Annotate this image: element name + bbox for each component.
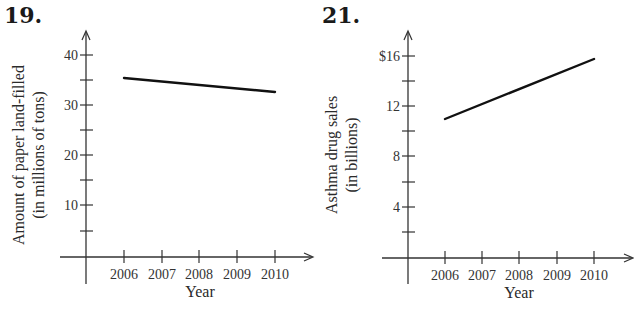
x-tick-label: 2010 [580, 268, 608, 283]
x-tick-label: 2006 [110, 267, 138, 282]
y-axis-title-line2: (in billions) [343, 117, 361, 192]
y-tick-label: $16 [379, 49, 400, 64]
x-tick-label: 2008 [505, 268, 533, 283]
x-tick-label: 2006 [431, 268, 459, 283]
x-axis-title: Year [185, 283, 215, 300]
data-line [124, 78, 275, 92]
y-tick-label: 12 [386, 99, 400, 114]
y-tick-label: 4 [393, 200, 400, 215]
y-axis-title-line2: (in millions of tons) [30, 91, 48, 219]
chart-19: 40 30 20 10 2006 2007 2008 2009 2010 Yea… [10, 31, 313, 300]
y-tick-label: 40 [64, 48, 78, 63]
y-tick-label: 8 [393, 149, 400, 164]
x-tick-label: 2008 [185, 267, 213, 282]
y-tick-label: 30 [64, 98, 78, 113]
y-tick-label: 10 [64, 198, 78, 213]
x-tick-label: 2010 [261, 267, 289, 282]
chart-21: $16 12 8 4 2006 2007 2008 2009 2010 Year… [323, 31, 633, 301]
x-tick-label: 2009 [543, 268, 571, 283]
x-tick-label: 2007 [148, 267, 176, 282]
x-axis-title: Year [504, 284, 534, 301]
y-axis-title-line1: Amount of paper land-filled [10, 65, 28, 245]
data-line [445, 59, 594, 119]
y-tick-label: 20 [64, 148, 78, 163]
y-axis-title-line1: Asthma drug sales [323, 96, 341, 214]
x-tick-label: 2007 [468, 268, 496, 283]
x-tick-label: 2009 [223, 267, 251, 282]
